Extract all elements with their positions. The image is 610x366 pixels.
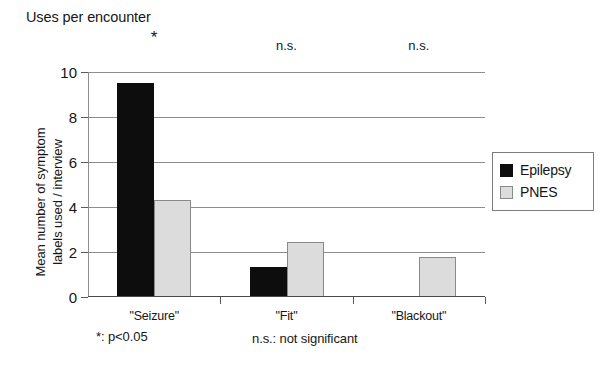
y-tick-label: 2 (69, 244, 77, 261)
plot-area: 0246810 (88, 72, 485, 297)
legend-item-epilepsy: Epilepsy (500, 159, 586, 181)
y-tick-label: 6 (69, 154, 77, 171)
bar-pnes-1 (287, 242, 324, 297)
legend-item-pnes: PNES (500, 181, 586, 203)
legend: Epilepsy PNES (492, 152, 594, 211)
footnote-not-significant: n.s.: not significant (252, 331, 358, 346)
footnote-significance-star: *: p<0.05 (96, 329, 148, 344)
significance-marker-1: n.s. (276, 38, 297, 53)
legend-label-pnes: PNES (520, 184, 557, 200)
bar-epilepsy-0 (117, 83, 154, 297)
legend-swatch-epilepsy (500, 164, 513, 177)
x-axis-line (88, 296, 485, 298)
bar-pnes-2 (419, 257, 456, 298)
y-tick-label: 10 (60, 64, 77, 81)
significance-marker-0: * (151, 28, 158, 48)
y-tick-label: 4 (69, 199, 77, 216)
legend-label-epilepsy: Epilepsy (520, 162, 571, 178)
y-axis-line (88, 72, 89, 297)
y-tick-mark (81, 72, 88, 73)
bar-pnes-0 (154, 200, 191, 297)
chart-title: Uses per encounter (26, 8, 151, 26)
y-tick-label: 8 (69, 109, 77, 126)
x-axis-label-2: "Blackout" (391, 309, 446, 323)
x-axis-tick (353, 297, 354, 304)
significance-marker-2: n.s. (408, 38, 429, 53)
y-tick-label: 0 (69, 289, 77, 306)
x-axis-label-0: "Seizure" (129, 309, 178, 323)
bar-chart-figure: Uses per encounter Mean number of sympto… (0, 0, 610, 366)
x-axis-tick (485, 297, 486, 304)
bar-epilepsy-1 (250, 267, 287, 297)
legend-swatch-pnes (500, 186, 513, 199)
y-tick-mark (81, 162, 88, 163)
y-tick-mark (81, 252, 88, 253)
gridline (88, 72, 485, 73)
y-axis-title: Mean number of symptom labels used / int… (32, 87, 66, 317)
y-tick-mark (81, 207, 88, 208)
x-axis-tick (220, 297, 221, 304)
x-axis-label-1: "Fit" (276, 309, 298, 323)
y-tick-mark (81, 297, 88, 298)
y-tick-mark (81, 117, 88, 118)
